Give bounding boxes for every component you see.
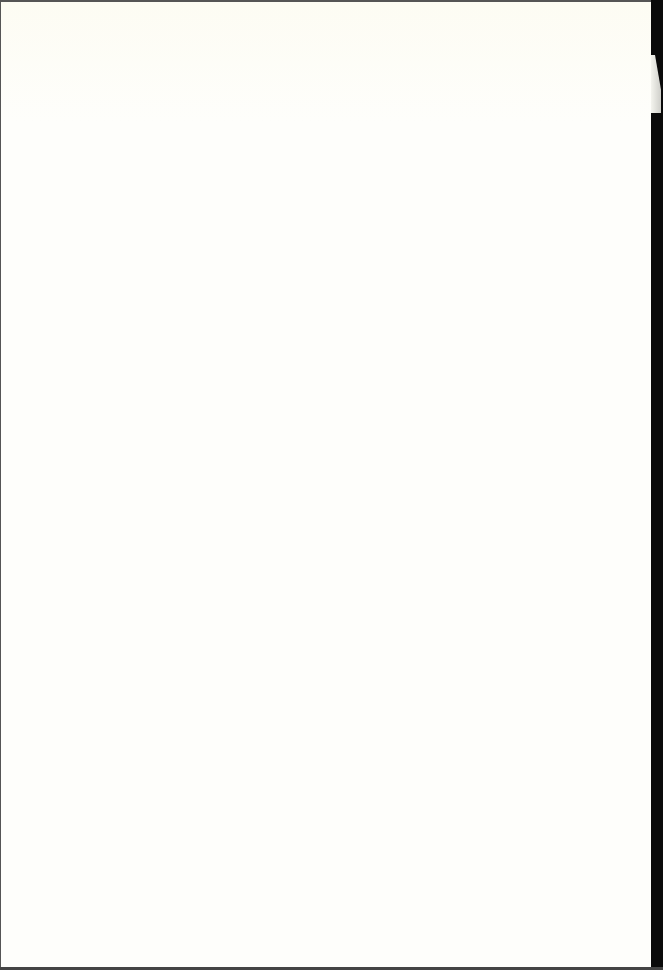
scan-edge-right xyxy=(651,0,663,970)
blank-page xyxy=(1,2,651,967)
